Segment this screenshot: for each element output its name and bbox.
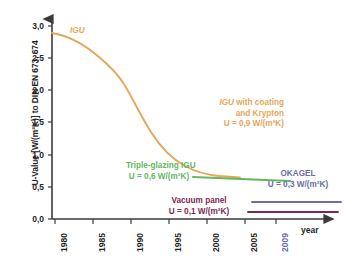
y-tick-label-1-5: 1,5 xyxy=(18,117,44,127)
annotation-igu: IGU xyxy=(70,26,85,37)
annotation-igu-coating-line1: IGU with coating xyxy=(165,98,284,109)
x-tick-label-2009: 2009 xyxy=(280,233,290,252)
x-tick-label-1990: 1990 xyxy=(135,233,145,252)
x-tick-label-2005: 2005 xyxy=(249,233,259,252)
annotation-vacuum-panel: Vacuum panel U = 0,1 W/(m²K) xyxy=(152,196,246,217)
annotation-vacuum-panel-line2: U = 0,1 W/(m²K) xyxy=(152,207,246,218)
x-tick-label-1985: 1985 xyxy=(97,233,107,252)
x-axis-title: year xyxy=(301,225,319,235)
annotation-igu-label: IGU xyxy=(70,26,85,35)
annotation-vacuum-panel-line1: Vacuum panel xyxy=(152,196,246,207)
y-tick-label-0-5: 0,5 xyxy=(18,182,44,192)
annotation-igu-coating-rest: with coating xyxy=(234,98,284,107)
annotation-triple-glazing-line2: U = 0,6 W/(m²K) xyxy=(126,172,192,183)
annotation-igu-coating-line2: and Krypton xyxy=(165,109,284,120)
y-tick-label-1-0: 1,0 xyxy=(18,150,44,160)
annotation-okagel-line1: OKAGEL xyxy=(254,169,342,180)
annotation-triple-glazing: Triple-glazing IGU U = 0,6 W/(m²K) xyxy=(126,161,192,182)
x-tick-label-1980: 1980 xyxy=(59,233,69,252)
x-tick-label-2000: 2000 xyxy=(211,233,221,252)
annotation-igu-coating: IGU with coating and Krypton U = 0,9 W/(… xyxy=(165,98,284,130)
x-tick-label-1995: 1995 xyxy=(173,233,183,252)
y-tick-label-2-0: 2,0 xyxy=(18,85,44,95)
annotation-igu-coating-line3: U = 0,9 W/(m²K) xyxy=(165,119,284,130)
annotation-okagel: OKAGEL U = 0,3 W/(m²K) xyxy=(254,169,342,190)
annotation-igu-coating-italic: IGU xyxy=(219,98,234,107)
annotation-triple-glazing-line1: Triple-glazing IGU xyxy=(126,161,192,172)
y-tick-label-2-5: 2,5 xyxy=(18,53,44,63)
u-value-chart: U-Value [W/(m²K)] to DIN EN 673, 674 3,0… xyxy=(0,0,344,259)
y-tick-label-0-0: 0,0 xyxy=(18,214,44,224)
chart-plot-area xyxy=(0,0,344,259)
annotation-okagel-line2: U = 0,3 W/(m²K) xyxy=(254,180,342,191)
y-tick-label-3-0: 3,0 xyxy=(18,21,44,31)
